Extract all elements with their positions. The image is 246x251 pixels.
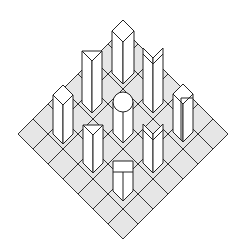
prism-lower-left xyxy=(83,125,103,173)
prism-left xyxy=(53,85,73,144)
prism-right xyxy=(173,84,193,142)
prism-center xyxy=(113,92,133,143)
isometric-prism-diagram xyxy=(0,0,246,251)
prism-upper-right xyxy=(143,48,163,113)
prism-upper-left xyxy=(82,51,102,113)
prism-top xyxy=(112,20,134,84)
